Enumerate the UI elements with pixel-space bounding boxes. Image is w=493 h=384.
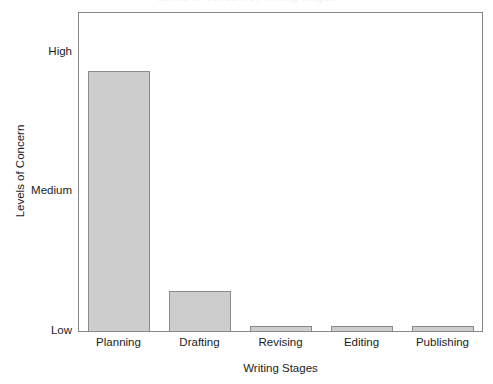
bar-editing [331,326,393,332]
bar-planning [88,71,150,332]
x-tick-label-publishing: Publishing [402,336,483,348]
x-axis-tick-labels: PlanningDraftingRevisingEditingPublishin… [78,336,483,354]
bars-layer [78,12,483,332]
x-tick-label-revising: Revising [240,336,321,348]
bar-chart-figure: Levels of Concern by Writing Stages Leve… [0,0,493,384]
x-tick-label-editing: Editing [321,336,402,348]
x-tick-label-planning: Planning [78,336,159,348]
x-tick-label-drafting: Drafting [159,336,240,348]
y-tick-label-medium: Medium [6,184,72,196]
y-axis-title: Levels of Concern [14,106,26,236]
bar-revising [250,326,312,332]
clipped-chart-title: Levels of Concern by Writing Stages [0,0,493,3]
y-tick-label-low: Low [6,324,72,336]
bar-publishing [412,326,474,332]
bar-drafting [169,291,231,332]
y-tick-label-high: High [6,45,72,57]
x-axis-title: Writing Stages [78,362,483,374]
y-axis-tick-labels: Levels of Concern HighMediumLow [0,0,72,384]
